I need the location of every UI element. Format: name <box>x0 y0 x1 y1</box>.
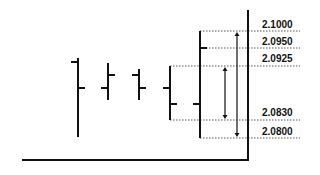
ohlc-bar <box>101 63 115 100</box>
chart-axes <box>22 10 249 160</box>
price-label-2-0950: 2.0950 <box>262 36 293 47</box>
ohlc-chart: 2.1000 2.0950 2.0925 2.0830 2.0800 <box>0 0 320 175</box>
price-label-2-0830: 2.0830 <box>262 107 293 118</box>
price-label-2-0925: 2.0925 <box>262 53 293 64</box>
double-arrow-icon <box>235 32 240 137</box>
price-labels: 2.1000 2.0950 2.0925 2.0830 2.0800 <box>262 19 293 137</box>
dotted-price-guides <box>170 31 300 138</box>
ohlc-bar <box>71 58 85 137</box>
ohlc-bar <box>132 69 146 100</box>
arrow-head-up-icon <box>223 67 228 71</box>
double-arrow-icon <box>223 67 228 119</box>
arrow-head-down-icon <box>223 115 228 119</box>
arrow-head-down-icon <box>235 133 240 137</box>
ohlc-bar <box>193 31 207 138</box>
price-label-2-1000: 2.1000 <box>262 19 293 30</box>
ohlc-bar <box>163 66 177 120</box>
ohlc-bars <box>71 31 207 138</box>
price-label-2-0800: 2.0800 <box>262 126 293 137</box>
arrow-head-up-icon <box>235 32 240 36</box>
